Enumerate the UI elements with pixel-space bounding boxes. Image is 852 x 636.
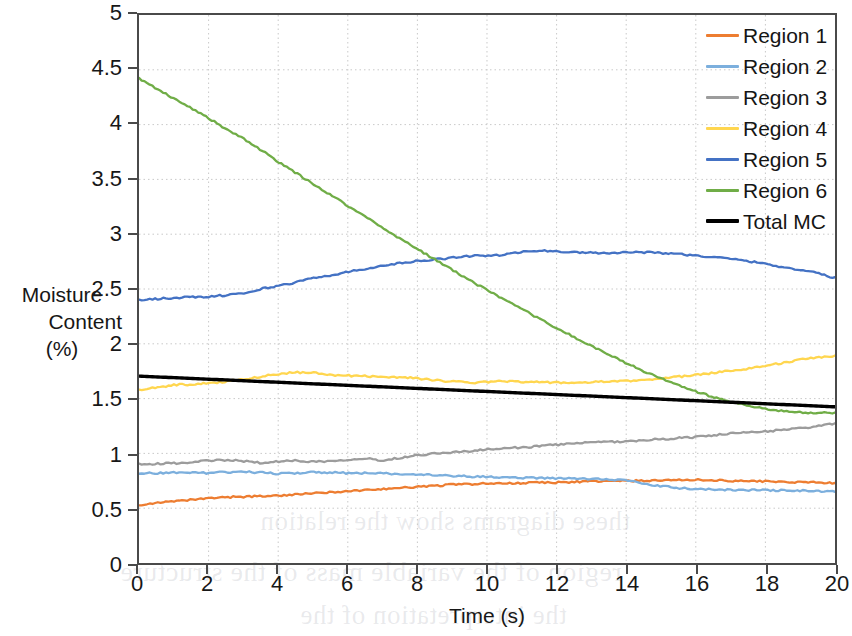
legend-item-region-6[interactable]: Region 6 [706,179,827,201]
x-tick-label: 6 [317,573,377,595]
y-tick-label: 3 [0,223,122,245]
y-tick-mark [128,122,137,124]
legend-color-swatch [706,127,739,130]
y-tick-mark [128,398,137,400]
legend-item-region-2[interactable]: Region 2 [706,55,827,77]
x-tick-label: 20 [807,573,852,595]
legend-item-region-3[interactable]: Region 3 [706,86,827,108]
y-axis-title: Moisture Content (%) [2,282,122,363]
y-tick-label: 0.5 [0,499,122,521]
legend-item-label: Region 3 [743,87,827,108]
y-tick-mark [128,12,137,14]
chart-legend: Region 1 Region 2 Region 3 Region 4 Regi… [706,24,827,232]
y-tick-mark [128,233,137,235]
y-tick-mark [128,454,137,456]
x-tick-label: 12 [527,573,587,595]
x-tick-mark [766,565,768,574]
series-region-1 [139,479,835,505]
y-axis-title-line-3: (%) [2,336,122,363]
x-tick-mark [206,565,208,574]
series-total-mc [139,376,835,407]
legend-color-swatch [706,96,739,99]
legend-color-swatch [706,34,739,37]
legend-item-label: Region 5 [743,149,827,170]
x-tick-mark [276,565,278,574]
x-tick-mark [346,565,348,574]
x-tick-label: 14 [597,573,657,595]
series-region-5 [139,250,835,300]
x-tick-mark [416,565,418,574]
legend-item-label: Region 2 [743,56,827,77]
x-tick-mark [696,565,698,574]
legend-color-swatch [706,189,739,192]
y-tick-label: 1.5 [0,388,122,410]
legend-color-swatch [706,65,739,68]
legend-item-label: Region 1 [743,25,827,46]
x-tick-mark [136,565,138,574]
moisture-content-line-chart: 00.511.522.533.544.55 Moisture Content (… [0,0,852,636]
x-tick-mark [836,565,838,574]
y-axis-title-line-1: Moisture [2,282,122,309]
y-tick-label: 0 [0,554,122,576]
x-tick-label: 4 [247,573,307,595]
y-tick-mark [128,178,137,180]
legend-color-swatch [706,219,739,223]
x-axis-title: Time (s) [137,604,837,628]
x-tick-label: 18 [737,573,797,595]
y-tick-mark [128,67,137,69]
x-tick-mark [556,565,558,574]
series-region-3 [139,423,835,464]
x-tick-label: 0 [107,573,167,595]
legend-item-region-4[interactable]: Region 4 [706,117,827,139]
y-tick-mark [128,343,137,345]
x-tick-label: 8 [387,573,447,595]
y-tick-label: 5 [0,2,122,24]
y-tick-label: 4 [0,112,122,134]
legend-item-region-5[interactable]: Region 5 [706,148,827,170]
legend-color-swatch [706,158,739,161]
series-region-4 [139,356,835,391]
legend-item-label: Region 4 [743,118,827,139]
y-tick-mark [128,288,137,290]
x-tick-mark [626,565,628,574]
x-tick-label: 16 [667,573,727,595]
x-tick-label: 2 [177,573,237,595]
y-tick-mark [128,509,137,511]
x-tick-label: 10 [457,573,517,595]
y-tick-label: 1 [0,444,122,466]
y-tick-label: 4.5 [0,57,122,79]
legend-item-label: Total MC [743,211,826,232]
y-axis-title-line-2: Content [2,309,122,336]
x-tick-mark [486,565,488,574]
y-tick-label: 3.5 [0,168,122,190]
legend-item-label: Region 6 [743,180,827,201]
legend-item-region-1[interactable]: Region 1 [706,24,827,46]
legend-item-total-mc[interactable]: Total MC [706,210,827,232]
